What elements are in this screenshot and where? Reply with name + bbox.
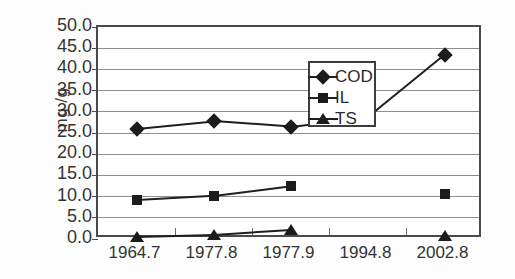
data-point-triangle [284, 224, 298, 235]
legend-marker-triangle [312, 108, 334, 130]
data-point-diamond [315, 69, 331, 85]
x-axis-tick-labels: 1964.71977.81977.91994.82002.8 [96, 243, 481, 269]
legend-marker-diamond [312, 66, 334, 88]
series-line-segment [136, 234, 213, 238]
legend-label: IL [335, 88, 349, 108]
legend-item: TS [310, 108, 374, 130]
series-line-segment [136, 120, 213, 130]
data-point-square [440, 189, 450, 199]
data-point-square [209, 191, 219, 201]
data-point-square [132, 195, 142, 205]
data-point-triangle [438, 230, 452, 241]
y-tick-label: 50.0 [36, 16, 92, 34]
data-point-diamond [206, 113, 222, 129]
y-tick-label: 20.0 [36, 143, 92, 161]
y-tick-label: 45.0 [36, 37, 92, 55]
series-line-segment [367, 54, 445, 118]
legend-item: COD [310, 66, 374, 88]
series-line-segment [136, 195, 213, 201]
y-tick-label: 30.0 [36, 101, 92, 119]
data-point-triangle [130, 231, 144, 242]
series-line-segment [213, 229, 290, 236]
series-line-segment [213, 185, 290, 197]
y-tick-label: 40.0 [36, 58, 92, 76]
y-tick-label: 5.0 [36, 207, 92, 225]
plot-area: CODILTS [96, 25, 481, 237]
y-axis-tick-labels: 50.045.040.035.030.025.020.015.010.05.00… [36, 0, 92, 279]
legend-label: TS [335, 109, 357, 129]
data-point-diamond [283, 119, 299, 135]
legend-label: COD [335, 67, 373, 87]
y-tick-mark [92, 239, 98, 240]
legend-item: IL [310, 87, 374, 109]
data-point-diamond [129, 121, 145, 137]
y-tick-label: 25.0 [36, 122, 92, 140]
y-tick-label: 0.0 [36, 228, 92, 246]
data-point-square [318, 93, 328, 103]
y-tick-label: 15.0 [36, 164, 92, 182]
y-tick-label: 10.0 [36, 186, 92, 204]
x-tick-label: 2002.8 [398, 243, 488, 263]
data-series-layer [98, 27, 479, 235]
chart-figure: mg /g 50.045.040.035.030.025.020.015.010… [0, 0, 515, 279]
legend: CODILTS [308, 61, 376, 127]
data-point-triangle [207, 229, 221, 240]
data-point-triangle [316, 113, 330, 124]
y-tick-label: 35.0 [36, 80, 92, 98]
legend-marker-square [312, 87, 334, 109]
series-line-segment [213, 120, 290, 128]
data-point-square [286, 181, 296, 191]
